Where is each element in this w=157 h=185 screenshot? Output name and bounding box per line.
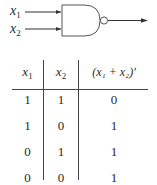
cell-x1: 1 (12, 93, 43, 107)
header-output: (x₁ + x₂)′ (79, 65, 149, 79)
header-divider (12, 89, 148, 90)
cell-x1: 1 (12, 119, 43, 133)
cell-x1: 0 (12, 171, 43, 185)
cell-x2: 1 (44, 93, 78, 107)
truth-table: x1 x2 (x₁ + x₂)′ 1 1 0 1 0 1 0 1 1 0 0 1 (0, 0, 157, 185)
cell-x2: 0 (44, 119, 78, 133)
cell-output: 1 (79, 145, 149, 159)
cell-output: 1 (79, 171, 149, 185)
cell-output: 1 (79, 119, 149, 133)
header-x1: x1 (12, 65, 43, 83)
cell-x2: 0 (44, 171, 78, 185)
cell-x1: 0 (12, 145, 43, 159)
cell-output: 0 (79, 93, 149, 107)
cell-x2: 1 (44, 145, 78, 159)
header-x2: x2 (44, 65, 78, 83)
